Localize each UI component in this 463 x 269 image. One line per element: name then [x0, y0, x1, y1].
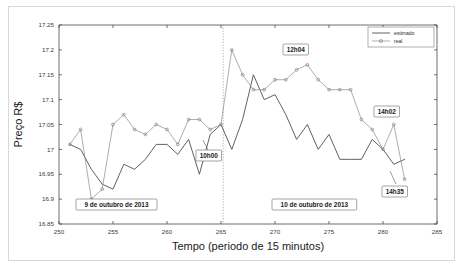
series-line-estimado [70, 75, 405, 189]
y-tick-label: 17.05 [39, 121, 55, 128]
y-tick-label: 17 [47, 146, 54, 153]
chart-figure: 25025526026527027528028516.8516.916.9517… [0, 0, 463, 269]
x-tick-label: 265 [216, 228, 227, 235]
legend-label-real: real [394, 38, 402, 44]
y-axis-title: Preço R$ [12, 102, 24, 148]
y-tick-label: 17.15 [39, 71, 55, 78]
y-tick-label: 17.1 [42, 96, 55, 103]
series-line-real [70, 50, 405, 199]
x-tick-label: 280 [378, 228, 389, 235]
y-tick-label: 16.95 [39, 170, 55, 177]
plot-frame [59, 25, 437, 224]
y-tick-label: 16.85 [39, 220, 55, 227]
legend-label-estimado: estimado [394, 30, 415, 36]
annotation-label: 10 de outubro de 2013 [281, 201, 349, 208]
annotation-label: 14h02 [378, 108, 397, 115]
y-tick-label: 16.9 [42, 195, 55, 202]
x-tick-label: 270 [270, 228, 281, 235]
chart-canvas: 25025526026527027528028516.8516.916.9517… [0, 0, 463, 269]
annotation-label: 9 de outubro de 2013 [85, 201, 149, 208]
annotation-label: 10h00 [200, 152, 219, 159]
x-axis-title: Tempo (periodo de 15 minutos) [172, 240, 324, 252]
y-tick-label: 17.2 [42, 46, 55, 53]
x-tick-label: 275 [324, 228, 335, 235]
x-tick-label: 255 [108, 228, 119, 235]
x-tick-label: 285 [432, 228, 443, 235]
annotation-leader [390, 171, 396, 184]
annotation-label: 12h04 [287, 46, 306, 53]
x-tick-label: 260 [162, 228, 173, 235]
y-tick-label: 17.25 [39, 21, 55, 28]
x-tick-label: 250 [54, 228, 65, 235]
annotation-label: 14h35 [386, 188, 405, 195]
